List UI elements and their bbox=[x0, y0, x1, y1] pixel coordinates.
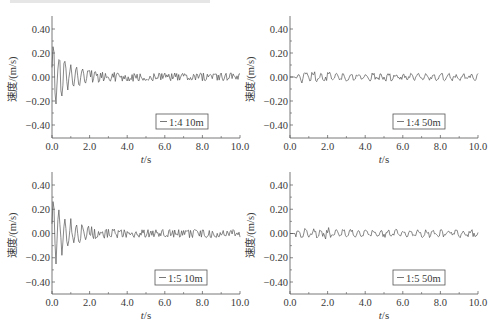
velocity-series-line bbox=[52, 202, 240, 264]
x-tick-label: 0.0 bbox=[45, 297, 58, 308]
x-tick-label: 8.0 bbox=[196, 141, 209, 152]
x-tick-label: 6.0 bbox=[396, 297, 409, 308]
chart-panel-2: 0.400.200.00−0.20−0.400.02.04.06.08.010.… bbox=[244, 16, 487, 165]
legend-label: 1:4 50m bbox=[406, 117, 441, 128]
velocity-series-line bbox=[52, 47, 240, 104]
y-tick-label: 0.40 bbox=[270, 24, 288, 35]
y-tick-label: 0.20 bbox=[32, 204, 50, 215]
x-tick-label: 4.0 bbox=[359, 297, 372, 308]
y-tick-label: 0.20 bbox=[32, 48, 50, 59]
y-axis-label: 速度/(m/s) bbox=[244, 56, 257, 102]
x-tick-label: 4.0 bbox=[121, 297, 134, 308]
legend-box: 1:5 50m bbox=[393, 270, 445, 285]
x-tick-label: 8.0 bbox=[434, 141, 447, 152]
legend-box: 1:4 50m bbox=[393, 114, 445, 129]
x-tick-label: 2.0 bbox=[321, 297, 334, 308]
y-tick-label: −0.20 bbox=[264, 96, 288, 107]
x-axis-label: t/s bbox=[141, 309, 151, 321]
y-tick-label: −0.40 bbox=[26, 120, 50, 131]
y-axis-label: 速度/(m/s) bbox=[6, 56, 19, 102]
y-tick-label: 0.00 bbox=[270, 228, 288, 239]
x-tick-label: 8.0 bbox=[434, 297, 447, 308]
x-tick-label: 4.0 bbox=[121, 141, 134, 152]
x-tick-label: 10.0 bbox=[469, 141, 487, 152]
y-tick-label: 0.00 bbox=[32, 228, 50, 239]
y-tick-label: −0.20 bbox=[26, 252, 50, 263]
y-tick-label: 0.40 bbox=[32, 24, 50, 35]
x-tick-label: 2.0 bbox=[83, 297, 96, 308]
legend-label: 1:5 50m bbox=[406, 273, 441, 284]
velocity-series-line bbox=[290, 72, 478, 83]
x-axis-label: t/s bbox=[379, 153, 389, 165]
y-tick-label: −0.40 bbox=[26, 277, 50, 288]
y-tick-label: −0.40 bbox=[264, 120, 288, 131]
chart-panel-1: 0.400.200.00−0.20−0.400.02.04.06.08.010.… bbox=[6, 16, 249, 165]
y-axis-label: 速度/(m/s) bbox=[6, 212, 19, 258]
x-tick-label: 8.0 bbox=[196, 297, 209, 308]
x-tick-label: 6.0 bbox=[158, 141, 171, 152]
legend-box: 1:5 10m bbox=[155, 270, 207, 285]
y-tick-label: 0.40 bbox=[32, 180, 50, 191]
y-tick-label: 0.00 bbox=[270, 72, 288, 83]
velocity-series-line bbox=[290, 228, 478, 239]
x-tick-label: 2.0 bbox=[83, 141, 96, 152]
x-tick-label: 0.0 bbox=[283, 297, 296, 308]
chart-svg: 0.400.200.00−0.20−0.400.02.04.06.08.010.… bbox=[0, 0, 501, 331]
legend-label: 1:5 10m bbox=[168, 273, 203, 284]
x-tick-label: 0.0 bbox=[283, 141, 296, 152]
x-tick-label: 6.0 bbox=[158, 297, 171, 308]
x-tick-label: 10.0 bbox=[231, 297, 249, 308]
legend-box: 1:4 10m bbox=[156, 114, 208, 129]
x-tick-label: 10.0 bbox=[469, 297, 487, 308]
y-axis-label: 速度/(m/s) bbox=[244, 212, 257, 258]
chart-panel-4: 0.400.200.00−0.20−0.400.02.04.06.08.010.… bbox=[244, 172, 487, 321]
x-tick-label: 6.0 bbox=[396, 141, 409, 152]
y-tick-label: −0.20 bbox=[264, 252, 288, 263]
legend-label: 1:4 10m bbox=[169, 117, 204, 128]
y-tick-label: 0.20 bbox=[270, 48, 288, 59]
y-tick-label: 0.00 bbox=[32, 72, 50, 83]
chart-panel-3: 0.400.200.00−0.20−0.400.02.04.06.08.010.… bbox=[6, 172, 249, 321]
x-tick-label: 4.0 bbox=[359, 141, 372, 152]
x-tick-label: 2.0 bbox=[321, 141, 334, 152]
y-tick-label: 0.20 bbox=[270, 204, 288, 215]
x-axis-label: t/s bbox=[379, 309, 389, 321]
y-tick-label: −0.20 bbox=[26, 96, 50, 107]
y-tick-label: −0.40 bbox=[264, 277, 288, 288]
x-tick-label: 10.0 bbox=[231, 141, 249, 152]
x-tick-label: 0.0 bbox=[45, 141, 58, 152]
x-axis-label: t/s bbox=[141, 153, 151, 165]
y-tick-label: 0.40 bbox=[270, 180, 288, 191]
